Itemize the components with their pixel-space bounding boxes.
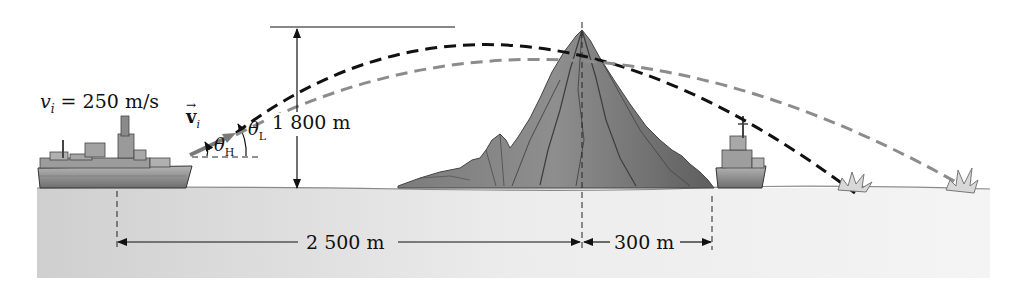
speed-symbol: v <box>40 90 51 112</box>
vector-arrow-icon: → <box>186 99 196 111</box>
high-impact-splash-icon <box>838 172 872 192</box>
height-label: 1 800 m <box>270 113 352 132</box>
theta-high-symbol: θ <box>214 134 225 155</box>
launch-warship <box>38 116 192 188</box>
distance-2500-label: 2 500 m <box>306 233 384 252</box>
mountain-island <box>398 30 714 188</box>
theta-high-subscript: H <box>225 146 235 159</box>
sea <box>37 186 990 278</box>
initial-speed-label: vi = 250 m/s <box>40 92 159 115</box>
theta-low-subscript: L <box>259 130 266 143</box>
distance-300-label: 300 m <box>614 233 674 252</box>
velocity-vector-label: → vi <box>186 108 200 130</box>
theta-low-label: θL <box>248 120 266 142</box>
theta-high-label: θH <box>214 136 234 158</box>
speed-value: = 250 m/s <box>55 90 159 112</box>
low-impact-splash-icon <box>946 168 978 193</box>
projectile-diagram <box>0 0 1027 300</box>
vector-subscript: i <box>196 118 200 131</box>
theta-low-symbol: θ <box>248 118 259 139</box>
